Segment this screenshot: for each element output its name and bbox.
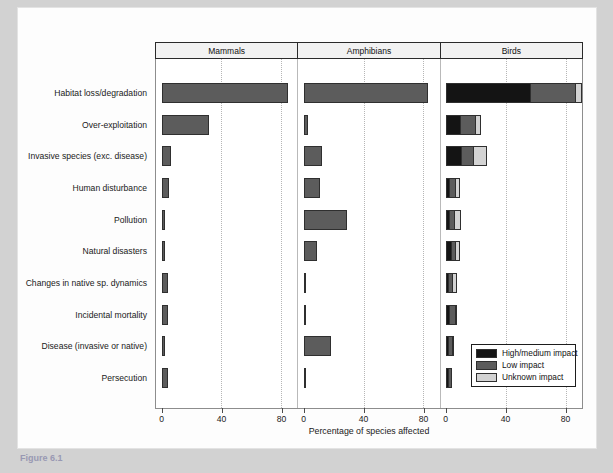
bar [304,115,308,135]
panel-header-mammals: Mammals [156,43,298,58]
bar [304,146,322,166]
bar-segment-high-medium-impact [446,115,459,135]
chart-legend: High/medium impactLow impactUnknown impa… [471,344,576,387]
legend-label: High/medium impact [502,348,578,358]
bar [304,368,305,388]
screenshot-root: Habitat loss/degradationOver-exploitatio… [0,0,613,473]
bar [304,336,331,356]
x-axis-tick [364,408,365,413]
x-axis-tick-label: 40 [359,414,369,424]
bar [162,368,168,388]
bar-segment-low-impact [162,241,165,261]
bar-segment-low-impact [304,210,347,230]
bar-segment-low-impact [162,305,168,325]
panel-header-amphibians-label: Amphibians [347,46,391,56]
legend-label: Unknown impact [502,372,563,382]
bar [304,83,428,103]
bar-segment-low-impact [162,83,289,103]
bar-segment-high-medium-impact [446,83,529,103]
y-axis-label: Pollution [114,215,147,225]
y-axis-label: Natural disasters [83,246,147,256]
gridline [364,59,366,408]
bar-segment-low-impact [460,115,475,135]
bar [162,210,165,230]
bar [446,210,461,230]
panel-header-mammals-label: Mammals [208,46,245,56]
y-axis-label: Disease (invasive or native) [41,341,147,351]
x-axis-tick-label: 80 [561,414,571,424]
bar-segment-low-impact [448,368,452,388]
y-axis-label: Incidental mortality [75,310,147,320]
x-axis-tick [566,408,567,413]
bar-segment-low-impact [304,305,306,325]
bar [446,273,456,293]
bar-segment-low-impact [461,146,473,166]
y-axis-label: Changes in native sp. dynamics [26,278,147,288]
bar-segment-low-impact [304,273,306,293]
bar [446,336,453,356]
x-axis-tick [222,408,223,413]
bar-segment-unknown-impact [455,241,459,261]
bar-segment-low-impact [304,368,306,388]
figure-caption-strip: Figure 6.1 [18,452,596,473]
x-axis-tick [506,408,507,413]
bar [304,241,317,261]
legend-label: Low impact [502,360,544,370]
bar-segment-unknown-impact [473,146,486,166]
bar-segment-unknown-impact [455,305,457,325]
legend-item: High/medium impact [476,348,571,358]
panel-header-strip: Mammals Amphibians Birds [155,42,583,59]
bar [304,273,305,293]
bar [162,83,289,103]
bar [446,146,486,166]
bar-segment-unknown-impact [575,83,582,103]
bar-segment-low-impact [162,146,171,166]
x-axis-tick [304,408,305,413]
bar [446,83,582,103]
bar [446,241,459,261]
y-axis-label: Over-exploitation [82,120,147,130]
figure-page-card: Habitat loss/degradationOver-exploitatio… [18,8,596,448]
x-axis-tick [162,408,163,413]
bar [162,146,171,166]
bar [162,336,166,356]
bar-segment-low-impact [304,241,317,261]
x-axis-tick-label: 40 [501,414,511,424]
legend-swatch [476,361,497,370]
bar [446,178,459,198]
bar-segment-low-impact [304,115,308,135]
bar [446,305,456,325]
x-axis-tick [446,408,447,413]
panel-amphibians [298,59,440,408]
bar-segment-high-medium-impact [446,146,461,166]
x-axis-tick [424,408,425,413]
x-axis-tick-label: 0 [443,414,448,424]
y-axis-label: Persecution [102,373,147,383]
bar [162,241,165,261]
panel-mammals [156,59,298,408]
bar-segment-low-impact [162,178,169,198]
legend-item: Low impact [476,360,571,370]
bar [304,210,347,230]
bar [304,178,320,198]
bar-segment-unknown-impact [475,115,481,135]
bar-segment-low-impact [162,336,166,356]
bar-segment-low-impact [304,336,331,356]
bar [162,115,210,135]
bar-segment-low-impact [162,115,210,135]
x-axis-tick-label: 0 [301,414,306,424]
x-axis-tick-label: 40 [217,414,227,424]
bar [162,305,168,325]
chart-figure: Habitat loss/degradationOver-exploitatio… [18,8,596,448]
bar-segment-low-impact [304,83,428,103]
gridline [281,59,283,408]
legend-swatch [476,349,497,358]
bar [162,178,169,198]
x-axis-title: Percentage of species affected [156,426,582,436]
bar-segment-unknown-impact [454,210,461,230]
y-axis-label: Habitat loss/degradation [54,88,147,98]
legend-swatch [476,373,497,382]
bar [446,368,452,388]
bar-segment-low-impact [304,178,320,198]
panel-header-birds-label: Birds [502,46,521,56]
